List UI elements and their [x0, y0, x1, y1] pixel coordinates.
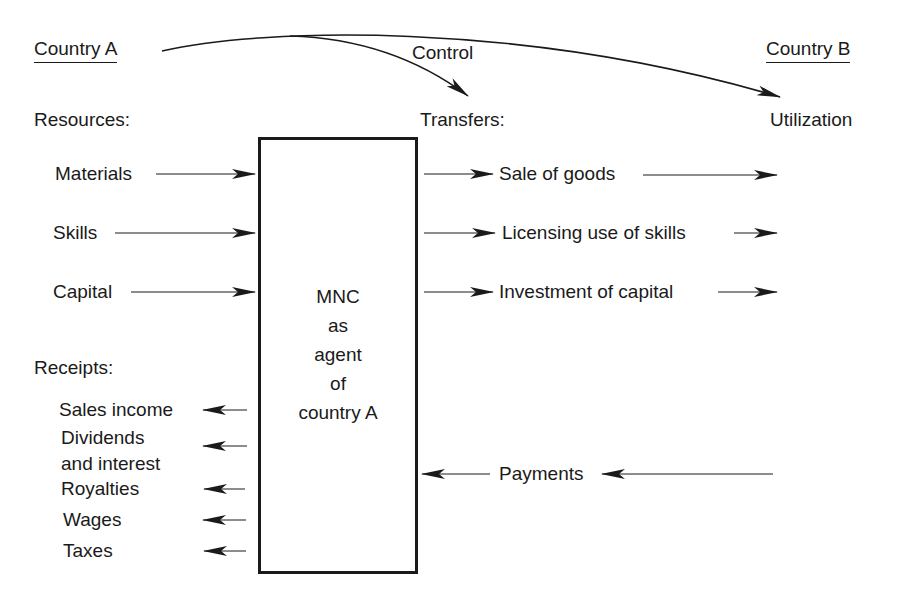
control-label: Control: [412, 42, 473, 64]
receipt-taxes: Taxes: [63, 540, 113, 562]
resource-skills: Skills: [53, 222, 97, 244]
receipt-and-interest: and interest: [61, 453, 160, 475]
transfer-investment: Investment of capital: [499, 281, 673, 303]
mnc-line-2: as: [261, 311, 415, 340]
country-a-label: Country A: [34, 38, 117, 63]
mnc-box: MNC as agent of country A: [258, 137, 418, 574]
transfer-sale-of-goods: Sale of goods: [499, 163, 615, 185]
payments-label: Payments: [499, 463, 583, 485]
transfer-licensing: Licensing use of skills: [502, 222, 686, 244]
transfers-heading: Transfers:: [420, 109, 505, 131]
mnc-line-4: of: [261, 369, 415, 398]
arrows-layer: [0, 0, 902, 603]
receipt-wages: Wages: [63, 509, 121, 531]
receipt-royalties: Royalties: [61, 478, 139, 500]
mnc-line-1: MNC: [261, 282, 415, 311]
utilization-heading: Utilization: [770, 109, 852, 131]
country-b-label: Country B: [766, 38, 850, 63]
receipt-dividends: Dividends: [61, 427, 144, 449]
resources-heading: Resources:: [34, 109, 130, 131]
mnc-line-5: country A: [261, 398, 415, 427]
receipt-sales-income: Sales income: [59, 399, 173, 421]
resource-capital: Capital: [53, 281, 112, 303]
resource-materials: Materials: [55, 163, 132, 185]
mnc-box-text: MNC as agent of country A: [261, 282, 415, 427]
mnc-line-3: agent: [261, 340, 415, 369]
receipts-heading: Receipts:: [34, 357, 113, 379]
